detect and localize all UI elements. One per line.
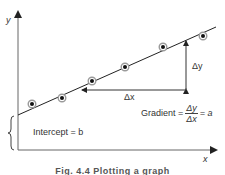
gradient-numerator: Δy: [185, 103, 198, 114]
gradient-denominator: Δx: [186, 114, 197, 124]
gradient-formula: Gradient = Δy Δx = a: [141, 103, 213, 124]
figure-caption: Fig. 4.4 Plotting a graph: [0, 166, 225, 175]
delta-x-label: Δx: [124, 93, 135, 102]
data-point-center: [123, 65, 127, 69]
data-point-center: [30, 102, 34, 106]
delta-y-label: Δy: [192, 62, 203, 71]
data-point-center: [90, 79, 94, 83]
gradient-fraction: Δy Δx: [185, 103, 198, 124]
data-point-center: [201, 34, 205, 38]
x-axis-label: x: [203, 155, 208, 164]
intercept-brace: [8, 116, 14, 150]
gradient-suffix: = a: [200, 109, 213, 118]
data-point-center: [161, 45, 165, 49]
gradient-prefix: Gradient =: [141, 109, 183, 118]
intercept-label: Intercept = b: [33, 128, 83, 137]
y-axis-label: y: [6, 16, 11, 25]
linear-graph-diagram: [0, 0, 225, 175]
data-point-center: [60, 96, 64, 100]
